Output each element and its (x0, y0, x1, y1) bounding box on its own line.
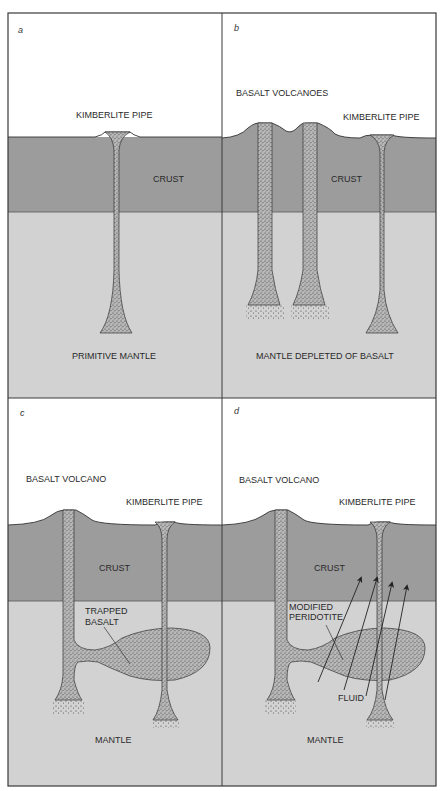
panel-d: d BASALT VOLCANO KIMBERLITE PIPE CRUST M… (222, 398, 436, 786)
mantle-label: PRIMITIVE MANTLE (72, 351, 156, 361)
kimberlite-label: KIMBERLITE PIPE (339, 497, 416, 507)
crust-label: CRUST (153, 174, 185, 184)
mantle-layer (8, 601, 222, 786)
kimberlite-label: KIMBERLITE PIPE (76, 110, 153, 120)
kimberlite-label: KIMBERLITE PIPE (343, 112, 420, 122)
panel-a: a KIMBERLITE PIPE CRUST PRIMITIVE MANTLE (8, 13, 222, 398)
mantle-label: MANTLE (307, 735, 344, 745)
modified-label-line2: PERIDOTITE (289, 612, 343, 622)
trapped-label-line1: TRAPPED (85, 606, 128, 616)
crust-label: CRUST (99, 563, 131, 573)
panel-letter-a: a (18, 25, 23, 35)
panel-b: b BASALT VOLCANOES KIMBERLITE PIPE CRUST… (222, 13, 436, 398)
trapped-label-line2: BASALT (85, 617, 119, 627)
crust-label: CRUST (314, 563, 346, 573)
mantle-label: MANTLE DEPLETED OF BASALT (256, 351, 394, 361)
modified-label-line1: MODIFIED (289, 602, 333, 612)
crust-label: CRUST (331, 174, 363, 184)
panel-c: c BASALT VOLCANO KIMBERLITE PIPE CRUST T… (8, 398, 222, 786)
kimberlite-label: KIMBERLITE PIPE (126, 497, 203, 507)
fluid-label: FLUID (338, 693, 365, 703)
basalt-volcano-label: BASALT VOLCANO (239, 475, 319, 485)
basalt-volcanoes-label: BASALT VOLCANOES (236, 88, 328, 98)
mantle-label: MANTLE (95, 735, 132, 745)
panel-letter-b: b (234, 23, 239, 33)
kimberlite-diagram: a KIMBERLITE PIPE CRUST PRIMITIVE MANTLE… (0, 0, 443, 791)
panel-letter-c: c (20, 408, 25, 418)
mantle-layer (222, 601, 436, 786)
basalt-volcano-label: BASALT VOLCANO (26, 474, 106, 484)
